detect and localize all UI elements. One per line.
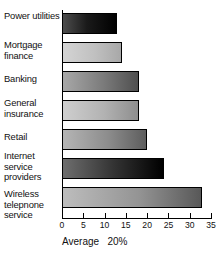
x-tick-mark	[168, 213, 169, 218]
x-tick-mark	[105, 213, 106, 218]
bar-internet-service-providers	[62, 158, 164, 179]
x-axis-line	[62, 218, 212, 219]
bar-retail	[62, 129, 147, 150]
x-tick-label: 0	[52, 220, 72, 230]
bar-row	[62, 187, 202, 208]
x-tick-label: 35	[201, 220, 221, 230]
bar-row	[62, 100, 139, 121]
category-label-wireless-telephone-service: Wireless telepnone service	[4, 189, 60, 221]
bar-row	[62, 71, 139, 92]
plot-area	[62, 10, 211, 218]
x-tick-mark	[211, 213, 212, 218]
bar-general-insurance	[62, 100, 139, 121]
bar-wireless-telephone-service	[62, 187, 202, 208]
x-tick-label: 30	[180, 220, 200, 230]
x-tick-mark	[62, 213, 63, 218]
bar-banking	[62, 71, 139, 92]
category-label-power-utilities: Power utilities	[4, 11, 60, 22]
x-tick-label: 25	[158, 220, 178, 230]
x-tick-label: 5	[73, 220, 93, 230]
bar-mortgage-finance	[62, 42, 122, 63]
category-label-general-insurance: General insurance	[4, 98, 60, 119]
category-axis-labels: Power utilities Mortgage finance Banking…	[0, 0, 58, 218]
x-tick-mark	[126, 213, 127, 218]
x-tick-label: 20	[137, 220, 157, 230]
x-tick-mark	[83, 213, 84, 218]
x-tick-mark	[190, 213, 191, 218]
bar-power-utilities	[62, 13, 117, 34]
category-label-banking: Banking	[4, 74, 60, 85]
axis-caption: Average 20%	[62, 236, 127, 248]
bar-row	[62, 158, 164, 179]
bar-chart: Power utilities Mortgage finance Banking…	[0, 0, 221, 256]
x-tick-mark	[147, 213, 148, 218]
category-label-retail: Retail	[4, 132, 60, 143]
category-label-internet-service-providers: Internet service providers	[4, 151, 60, 183]
x-tick-label: 15	[116, 220, 136, 230]
bar-row	[62, 13, 117, 34]
category-label-mortgage-finance: Mortgage finance	[4, 40, 60, 61]
x-tick-label: 10	[95, 220, 115, 230]
y-axis-line	[62, 10, 63, 219]
bar-row	[62, 42, 122, 63]
bar-row	[62, 129, 147, 150]
